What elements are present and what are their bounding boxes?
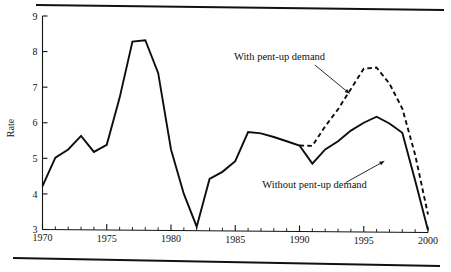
x-tick-label: 1990 (290, 234, 310, 245)
y-axis-tick-labels: 3456789 (33, 11, 38, 236)
line-chart: 3456789 1970197519801985199019952000 Rat… (0, 0, 451, 272)
bottom-rule (13, 258, 440, 266)
annotation-leader-line (315, 65, 350, 93)
y-tick-label: 4 (33, 189, 38, 200)
annotation-label: Without pent-up demand (262, 179, 367, 190)
x-tick-label: 1970 (33, 232, 53, 243)
x-tick-label: 1985 (225, 234, 245, 245)
y-axis-title: Rate (5, 118, 16, 137)
y-tick-label: 6 (33, 117, 38, 128)
y-tick-label: 8 (33, 46, 38, 57)
annotation-label: With pent-up demand (234, 51, 326, 62)
figure-container: 3456789 1970197519801985199019952000 Rat… (0, 0, 451, 272)
y-tick-label: 7 (33, 82, 38, 93)
x-axis-tick-labels: 1970197519801985199019952000 (33, 232, 439, 246)
y-tick-label: 5 (33, 153, 38, 164)
x-tick-label: 2000 (418, 235, 438, 246)
y-tick-label: 9 (33, 11, 38, 22)
y-axis-ticks (43, 16, 48, 230)
x-tick-label: 1975 (97, 233, 117, 244)
series-with-pent-up-demand (300, 68, 429, 215)
axes (43, 16, 429, 233)
x-tick-label: 1980 (161, 233, 181, 244)
top-rule (36, 5, 444, 10)
x-tick-label: 1995 (354, 235, 374, 246)
